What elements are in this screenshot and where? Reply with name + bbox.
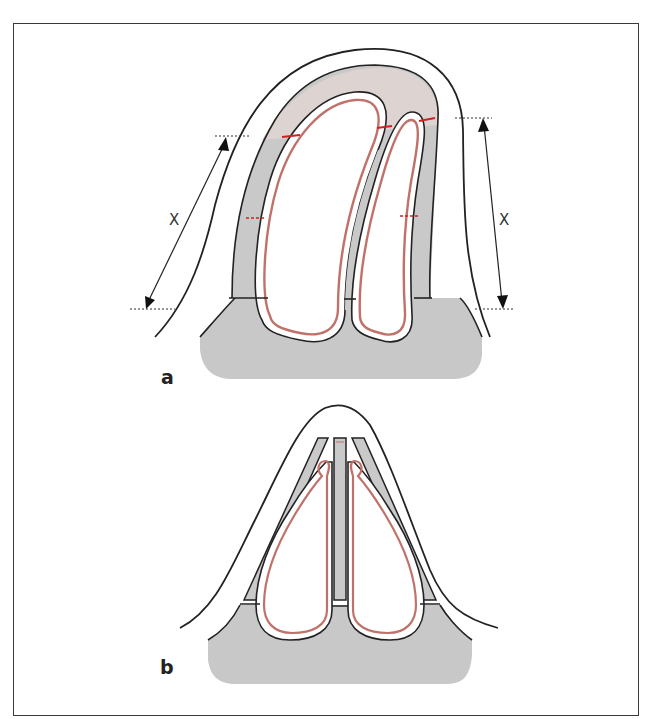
panel-a-left-measurement-arrow bbox=[145, 137, 229, 309]
panel-a-right-measurement-label: X bbox=[499, 211, 509, 229]
panel-b-septum bbox=[334, 438, 346, 600]
nasal-anatomy-diagram bbox=[0, 0, 648, 719]
panel-a-label: a bbox=[161, 366, 174, 388]
panel-b-left-vestibule bbox=[256, 462, 332, 640]
panel-a-drawing bbox=[130, 49, 515, 379]
panel-a-left-measurement-label: X bbox=[169, 211, 179, 229]
panel-b-base-tissue bbox=[208, 605, 472, 684]
panel-b-drawing bbox=[180, 405, 498, 684]
panel-b-label: b bbox=[160, 656, 174, 678]
